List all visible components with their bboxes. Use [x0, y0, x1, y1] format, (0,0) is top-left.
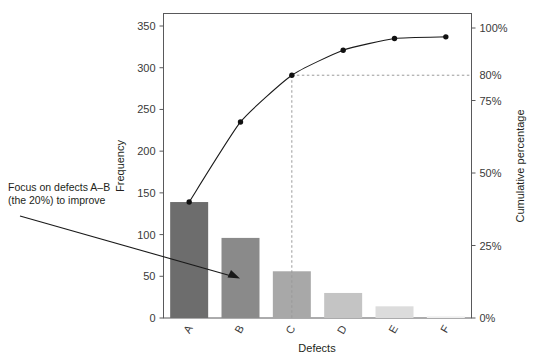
- bar-d[interactable]: [324, 293, 362, 318]
- cumulative-marker-b[interactable]: [238, 119, 243, 124]
- y2-tick-label-0: 0%: [480, 312, 496, 324]
- cumulative-marker-e[interactable]: [392, 36, 397, 41]
- y2-tick-label-100: 100%: [480, 22, 508, 34]
- cumulative-marker-a[interactable]: [186, 199, 191, 204]
- y-tick-label-300: 300: [137, 62, 155, 74]
- y-tick-label-350: 350: [137, 20, 155, 32]
- focus-annotation-line-1: Focus on defects A–B: [8, 181, 110, 193]
- y2-tick-label-80: 80%: [480, 69, 502, 81]
- y-axis-title: Frequency: [114, 140, 126, 192]
- bar-f[interactable]: [427, 316, 465, 318]
- cumulative-marker-c[interactable]: [289, 73, 294, 78]
- pareto-chart: 050100150200250300350 0%25%50%75%80%100%…: [0, 0, 537, 360]
- y2-tick-label-25: 25%: [480, 240, 502, 252]
- y-tick-label-150: 150: [137, 187, 155, 199]
- y-tick-label-100: 100: [137, 229, 155, 241]
- focus-annotation-line-2: (the 20%) to improve: [8, 194, 106, 206]
- cumulative-marker-d[interactable]: [340, 48, 345, 53]
- bar-e[interactable]: [376, 306, 414, 318]
- y-tick-label-0: 0: [149, 312, 155, 324]
- x-axis-title: Defects: [298, 342, 336, 354]
- chart-background: [0, 0, 537, 360]
- y2-tick-label-75: 75%: [480, 95, 502, 107]
- pareto-chart-canvas: 050100150200250300350 0%25%50%75%80%100%…: [0, 0, 537, 360]
- y-tick-label-250: 250: [137, 103, 155, 115]
- cumulative-marker-f[interactable]: [443, 34, 448, 39]
- y2-tick-label-50: 50%: [480, 167, 502, 179]
- bar-b[interactable]: [222, 238, 260, 318]
- y-tick-label-200: 200: [137, 145, 155, 157]
- y-tick-label-50: 50: [143, 270, 155, 282]
- y2-axis-title: Cumulative percentage: [514, 109, 526, 222]
